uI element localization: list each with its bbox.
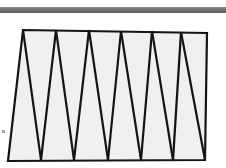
edge-speck-mark [2,130,5,133]
figure-root [0,0,226,168]
figure-canvas [0,0,226,168]
horizontal-gray-bar [0,7,226,13]
